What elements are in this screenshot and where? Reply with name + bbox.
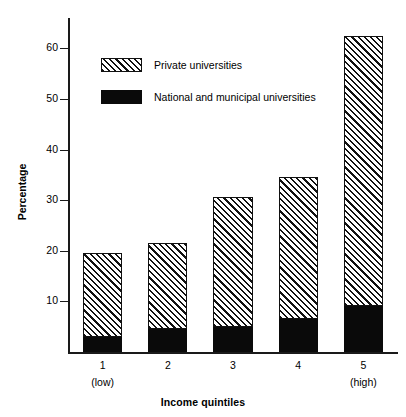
y-axis-title: Percentage bbox=[16, 152, 28, 232]
bar-segment-national bbox=[148, 329, 187, 352]
x-axis-sublabel: (high) bbox=[333, 377, 393, 388]
y-axis-tick-label: 10 bbox=[18, 295, 58, 305]
bar-segment-private bbox=[83, 253, 122, 337]
y-axis-tick bbox=[60, 200, 68, 201]
y-axis-tick bbox=[60, 301, 68, 302]
bar-segment-private bbox=[148, 243, 187, 329]
bar-segment-national bbox=[344, 306, 383, 352]
x-axis-title: Income quintiles bbox=[0, 396, 406, 408]
y-axis-tick bbox=[60, 48, 68, 49]
bar-segment-private bbox=[213, 197, 252, 327]
legend-label: Private universities bbox=[154, 59, 242, 71]
y-axis-tick bbox=[60, 251, 68, 252]
hatched-swatch-icon bbox=[101, 58, 142, 72]
legend-label: National and municipal universities bbox=[154, 91, 316, 103]
x-axis-tick-label: 1 bbox=[78, 360, 128, 371]
y-axis-tick-label: 20 bbox=[18, 245, 58, 255]
x-axis-sublabel: (low) bbox=[73, 377, 133, 388]
y-axis-tick-label: 40 bbox=[18, 144, 58, 154]
bar-segment-private bbox=[279, 177, 318, 319]
x-axis-tick-label: 3 bbox=[208, 360, 258, 371]
bar-segment-private bbox=[344, 36, 383, 306]
x-axis-tick-label: 4 bbox=[273, 360, 323, 371]
x-axis-line bbox=[68, 352, 398, 354]
y-axis-tick-label: 50 bbox=[18, 93, 58, 103]
bar-segment-national bbox=[213, 327, 252, 352]
x-axis-tick-label: 2 bbox=[143, 360, 193, 371]
x-axis-tick-label: 5 bbox=[338, 360, 388, 371]
y-axis-tick bbox=[60, 150, 68, 151]
stacked-bar-chart: Percentage 102030405060 1(low)2345(high)… bbox=[0, 0, 406, 417]
y-axis-tick-label: 30 bbox=[18, 194, 58, 204]
y-axis-tick-label: 60 bbox=[18, 42, 58, 52]
bar-segment-national bbox=[279, 319, 318, 352]
y-axis-line bbox=[68, 18, 70, 354]
y-axis-tick bbox=[60, 99, 68, 100]
solid-black-swatch-icon bbox=[101, 90, 142, 104]
bar-group bbox=[279, 18, 318, 352]
bar-group bbox=[344, 18, 383, 352]
bar-segment-national bbox=[83, 337, 122, 352]
